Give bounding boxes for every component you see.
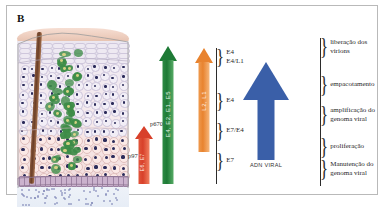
gene-brace-row: }E7 <box>216 152 234 169</box>
process-label: liberação dosvirions <box>330 38 367 55</box>
dermal-cell <box>30 197 32 199</box>
arrow-orange-label: L2, L1 <box>197 66 210 136</box>
dermal-cell <box>48 189 50 191</box>
dermal-cell <box>28 189 30 191</box>
brace-icon: } <box>216 150 224 171</box>
arrow-green-label: E4, E2, E1, E5 <box>161 62 174 166</box>
brace-icon: } <box>320 35 328 57</box>
gene-label: E7 <box>226 156 234 164</box>
brace-icon: } <box>216 90 224 111</box>
viral-process-column: }liberação dosvirions}empacotamento}ampl… <box>320 34 378 186</box>
brace-icon: } <box>320 73 328 95</box>
process-row: }empacotamento <box>320 76 375 93</box>
brace-icon: } <box>216 46 224 67</box>
dermal-cell <box>107 190 109 192</box>
gene-label: E7/E4 <box>226 126 244 134</box>
brace-icon: } <box>216 120 224 141</box>
arrow-head-blue <box>243 62 289 100</box>
process-label: amplificação dogenoma viral <box>330 106 375 123</box>
gene-brace-row: }E4E4/L1 <box>216 48 244 65</box>
epithelium-diagram <box>17 28 129 188</box>
brace-icon: } <box>320 135 328 157</box>
dermal-cell <box>37 195 39 197</box>
dermal-cell <box>51 188 53 190</box>
process-column-spine <box>320 38 321 186</box>
dermal-cell <box>89 191 91 193</box>
process-row: }amplificação dogenoma viral <box>320 106 375 123</box>
brace-icon: } <box>320 103 328 125</box>
figure-panel-b: B E6, E7 p97 p670 E4, E2, E1, E5 <box>0 0 386 217</box>
gene-brace-row: }E4 <box>216 92 234 109</box>
process-label: Manutenção dogenoma viral <box>330 160 373 177</box>
arrow-viral-dna <box>243 62 289 160</box>
process-label: empacotamento <box>330 80 374 88</box>
arrow-head-orange <box>195 48 213 63</box>
gene-label: E4 <box>226 96 234 104</box>
process-row: }proliferação <box>320 138 364 155</box>
dermal-cell <box>78 199 80 201</box>
panel-label: B <box>17 12 24 24</box>
dermal-cell <box>35 189 37 191</box>
process-row: }Manutenção dogenoma viral <box>320 160 374 177</box>
process-row: }liberação dosvirions <box>320 38 367 55</box>
dermal-cell <box>63 197 65 199</box>
dermal-cell <box>95 190 97 192</box>
dermal-cell <box>83 190 85 192</box>
dermal-cell <box>85 203 87 205</box>
viral-dna-caption: ADN VIRAL <box>243 162 289 168</box>
arrow-head-green <box>159 46 177 61</box>
dermal-cell <box>61 192 63 194</box>
arrow-shaft-blue <box>258 98 275 160</box>
brace-icon: } <box>320 157 328 179</box>
dermal-cell <box>70 203 72 205</box>
arrow-red-label: E6, E7 <box>136 141 148 183</box>
gene-column-spine <box>216 48 217 184</box>
dermal-cell <box>91 202 93 204</box>
promoter-label-p97: p97 <box>128 152 138 159</box>
dermal-cell <box>38 191 40 193</box>
dermal-cell <box>68 196 70 198</box>
gene-brace-row: }E7/E4 <box>216 122 244 139</box>
dermal-cell <box>21 189 23 191</box>
dermal-cell <box>103 200 105 202</box>
process-label: proliferação <box>330 142 364 150</box>
gene-label: E4E4/L1 <box>226 48 244 64</box>
gene-expression-column: }E4E4/L1}E4}E7/E4}E7 <box>216 44 246 188</box>
tissue-outline <box>17 28 129 188</box>
